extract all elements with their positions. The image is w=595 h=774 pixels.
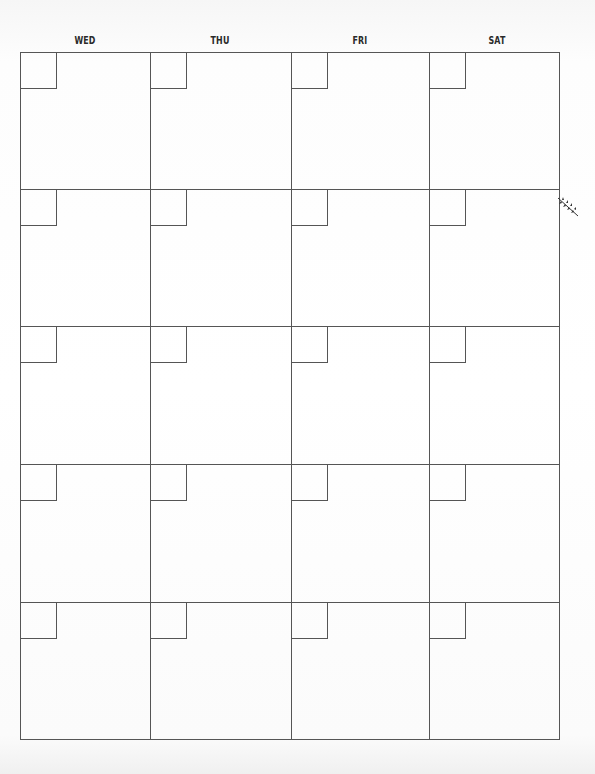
date-number-box[interactable] [20,52,57,89]
date-number-box[interactable] [291,326,328,363]
day-label-thu: THU [211,34,230,47]
day-cell[interactable] [291,326,430,465]
day-cell[interactable] [20,326,151,465]
day-cell[interactable] [291,464,430,603]
day-cell[interactable] [291,189,430,327]
day-cell[interactable] [20,602,151,740]
date-number-box[interactable] [20,189,57,226]
date-number-box[interactable] [291,189,328,226]
date-number-box[interactable] [429,326,466,363]
date-number-box[interactable] [429,602,466,639]
day-cell[interactable] [429,464,560,603]
day-cell[interactable] [20,189,151,327]
day-cell[interactable] [429,52,560,190]
date-number-box[interactable] [20,464,57,501]
day-cell[interactable] [150,189,292,327]
day-cell[interactable] [150,464,292,603]
date-number-box[interactable] [291,464,328,501]
date-number-box[interactable] [150,464,187,501]
date-number-box[interactable] [150,189,187,226]
date-number-box[interactable] [429,189,466,226]
day-cell[interactable] [20,464,151,603]
day-cell[interactable] [150,326,292,465]
day-cell[interactable] [429,602,560,740]
date-number-box[interactable] [429,52,466,89]
day-cell[interactable] [291,52,430,190]
date-number-box[interactable] [20,326,57,363]
date-number-box[interactable] [429,464,466,501]
date-number-box[interactable] [20,602,57,639]
date-number-box[interactable] [291,52,328,89]
day-cell[interactable] [291,602,430,740]
day-cell[interactable] [150,52,292,190]
day-label-wed: WED [74,34,95,47]
date-number-box[interactable] [150,52,187,89]
date-number-box[interactable] [150,602,187,639]
day-cell[interactable] [429,326,560,465]
day-cell[interactable] [20,52,151,190]
day-label-fri: FRI [353,34,368,47]
day-cell[interactable] [429,189,560,327]
leaf-sprig-icon [556,196,582,222]
date-number-box[interactable] [150,326,187,363]
calendar-grid [20,52,559,739]
day-label-sat: SAT [488,34,505,47]
day-cell[interactable] [150,602,292,740]
calendar-page: WED THU FRI SAT [0,0,595,774]
date-number-box[interactable] [291,602,328,639]
